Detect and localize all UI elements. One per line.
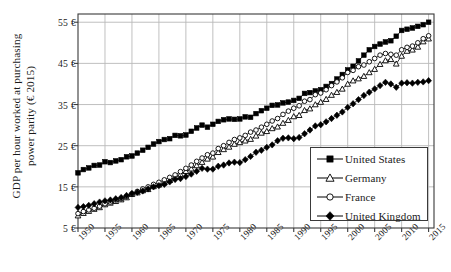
data-point-filled-square [140,148,145,153]
data-point-open-circle [232,137,237,142]
data-point-open-circle [335,80,340,85]
data-point-filled-square [211,122,216,127]
data-point-filled-square [135,151,140,156]
data-point-open-circle [372,56,377,61]
data-point-open-circle [189,163,194,168]
data-point-open-circle [205,152,210,157]
data-point-open-circle [410,44,415,49]
data-point-filled-diamond [307,127,313,133]
data-point-open-triangle [366,70,372,75]
data-point-open-circle [211,151,216,156]
data-point-filled-square [216,119,221,124]
data-point-filled-diamond [334,112,340,118]
data-point-filled-square [92,163,97,168]
data-point-filled-square [248,115,253,120]
data-point-filled-square [264,106,269,111]
data-point-filled-square [389,38,394,43]
data-point-filled-square [200,123,205,128]
data-point-open-circle [351,68,356,73]
data-point-filled-diamond [194,168,200,174]
data-point-filled-square [259,108,264,113]
data-point-filled-diamond [388,81,394,87]
data-point-open-triangle [345,81,351,86]
data-point-open-circle [308,97,313,102]
data-point-filled-diamond [237,159,243,165]
data-point-filled-square [103,159,108,164]
data-point-filled-diamond [356,96,362,102]
data-point-filled-diamond [248,153,254,159]
data-point-open-circle [243,133,248,138]
data-point-open-circle [340,75,345,80]
data-point-filled-square [421,22,426,27]
data-point-filled-square [205,125,210,130]
data-point-filled-square [327,155,333,161]
data-point-open-circle [184,166,189,171]
data-point-open-circle [264,122,269,127]
data-point-filled-square [394,34,399,39]
data-point-filled-square [378,42,383,47]
data-point-filled-square [178,134,183,139]
data-point-filled-diamond [97,199,103,205]
data-point-open-circle [275,116,280,121]
data-point-filled-square [281,101,286,106]
legend-label: Germany [345,172,387,184]
data-point-filled-diamond [86,202,92,208]
data-point-open-circle [389,52,394,57]
data-point-filled-diamond [221,162,227,168]
legend-item[interactable]: United States [311,150,427,167]
data-point-open-circle [238,136,243,141]
data-point-filled-diamond [231,159,237,165]
data-point-filled-diamond [291,136,297,142]
data-point-open-triangle [248,136,254,141]
data-point-filled-diamond [258,147,264,153]
legend-item[interactable]: France [311,188,427,205]
data-point-filled-square [383,40,388,45]
data-point-filled-diamond [80,203,86,209]
data-point-open-triangle [377,61,383,66]
data-point-open-circle [426,34,431,39]
data-point-open-circle [302,99,307,104]
data-point-filled-diamond [215,163,221,169]
data-point-filled-square [157,139,162,144]
data-point-filled-diamond [280,135,286,141]
data-point-filled-diamond [318,122,324,128]
data-point-open-circle [286,109,291,114]
data-point-open-triangle [286,117,292,122]
data-point-filled-square [189,129,194,134]
data-point-open-circle [200,156,205,161]
data-point-filled-square [76,171,81,176]
data-point-filled-square [254,111,259,116]
data-point-filled-square [146,145,151,150]
data-point-open-circle [394,53,399,58]
data-point-filled-square [81,167,86,172]
data-point-filled-diamond [415,79,421,85]
data-point-filled-square [297,96,302,101]
data-point-filled-diamond [326,211,334,220]
data-point-filled-square [275,103,280,108]
data-point-filled-diamond [199,165,205,171]
chart-legend[interactable]: United StatesGermanyFranceUnited Kingdom [310,147,428,221]
legend-item[interactable]: Germany [311,169,427,186]
legend-item[interactable]: United Kingdom [311,207,427,224]
data-point-open-circle [405,45,410,50]
data-point-open-circle [329,83,334,88]
data-point-filled-square [426,20,431,25]
data-point-filled-square [405,27,410,32]
legend-label: United Kingdom [345,210,421,222]
data-point-filled-diamond [372,86,378,92]
data-point-filled-square [291,98,296,103]
data-point-open-circle [291,106,296,111]
data-point-filled-diamond [399,80,405,86]
data-point-open-triangle [307,106,313,111]
data-point-open-circle [345,70,350,75]
data-point-open-triangle [275,124,281,129]
data-point-filled-diamond [366,89,372,95]
data-point-filled-square [410,26,415,31]
data-point-filled-square [238,117,243,122]
data-point-open-circle [356,64,361,69]
data-point-open-circle [248,130,253,135]
data-point-open-circle [318,91,323,96]
data-point-filled-square [184,133,189,138]
data-point-filled-square [130,154,135,159]
data-point-open-circle [327,193,333,199]
